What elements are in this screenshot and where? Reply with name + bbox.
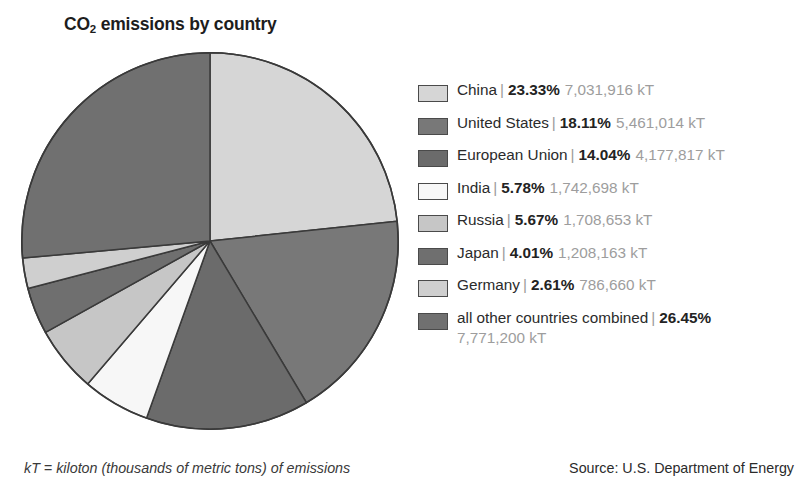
legend-kt-value: 1,708,653 kT xyxy=(563,211,652,228)
legend-country-name: European Union xyxy=(457,146,568,163)
legend-percent-value: 4.01% xyxy=(510,244,553,261)
legend-country-name: Germany xyxy=(457,276,520,293)
source-attribution: Source: U.S. Department of Energy xyxy=(569,460,794,476)
legend-item-all-other-countries-combined[interactable]: all other countries combined|26.45%7,771… xyxy=(418,310,804,346)
legend-country-name: all other countries combined xyxy=(457,309,648,326)
legend-separator: | xyxy=(651,309,655,326)
title-rest: emissions by country xyxy=(96,14,277,34)
legend-kt-value: 5,461,014 kT xyxy=(616,114,705,131)
legend-item-united-states[interactable]: United States|18.11%5,461,014 kT xyxy=(418,115,804,135)
legend-country-name: United States xyxy=(457,114,549,131)
page-title: CO2 emissions by country xyxy=(64,14,277,35)
legend-separator: | xyxy=(523,276,527,293)
legend-item-russia[interactable]: Russia|5.67%1,708,653 kT xyxy=(418,212,804,232)
legend-color-swatch xyxy=(418,85,448,102)
legend-percent-value: 2.61% xyxy=(531,276,574,293)
legend-country-name: Russia xyxy=(457,211,504,228)
legend-separator: | xyxy=(502,244,506,261)
legend-kt-value: 786,660 kT xyxy=(579,276,656,293)
legend-kt-value: 7,031,916 kT xyxy=(565,81,654,98)
legend-color-swatch xyxy=(418,313,448,330)
legend-separator: | xyxy=(507,211,511,228)
title-main: CO xyxy=(64,14,90,34)
pie-slice-china[interactable] xyxy=(210,53,397,241)
legend-color-swatch xyxy=(418,118,448,135)
legend-item-text: Russia|5.67%1,708,653 kT xyxy=(457,212,652,228)
legend-kt-value: 4,177,817 kT xyxy=(635,146,724,163)
legend-item-japan[interactable]: Japan|4.01%1,208,163 kT xyxy=(418,245,804,265)
legend-separator: | xyxy=(500,81,504,98)
legend-item-india[interactable]: India|5.78%1,742,698 kT xyxy=(418,180,804,200)
legend-item-text: China|23.33%7,031,916 kT xyxy=(457,82,654,98)
pie-slice-group xyxy=(22,53,398,429)
legend-item-text: Germany|2.61%786,660 kT xyxy=(457,277,656,293)
legend-item-germany[interactable]: Germany|2.61%786,660 kT xyxy=(418,277,804,297)
legend-item-text: Japan|4.01%1,208,163 kT xyxy=(457,245,647,261)
legend-separator: | xyxy=(552,114,556,131)
title-subscript: 2 xyxy=(90,23,96,35)
legend-percent-value: 26.45% xyxy=(659,309,711,326)
legend-color-swatch xyxy=(418,215,448,232)
legend-percent-value: 18.11% xyxy=(560,114,611,131)
legend-percent-value: 14.04% xyxy=(579,146,631,163)
legend-percent-value: 5.67% xyxy=(515,211,558,228)
legend-country-name: Japan xyxy=(457,244,499,261)
legend-separator: | xyxy=(493,179,497,196)
legend-percent-value: 5.78% xyxy=(501,179,544,196)
legend-kt-value: 1,208,163 kT xyxy=(558,244,647,261)
legend-kt-value: 1,742,698 kT xyxy=(550,179,639,196)
chart-legend: China|23.33%7,031,916 kTUnited States|18… xyxy=(418,82,804,358)
legend-percent-value: 23.33% xyxy=(508,81,560,98)
legend-item-text: India|5.78%1,742,698 kT xyxy=(457,180,639,196)
legend-kt-value: 7,771,200 kT xyxy=(457,330,711,346)
legend-country-name: India xyxy=(457,179,490,196)
legend-item-text: United States|18.11%5,461,014 kT xyxy=(457,115,705,131)
pie-chart-svg xyxy=(16,47,404,435)
legend-color-swatch xyxy=(418,150,448,167)
footnote-unit-definition: kT = kiloton (thousands of metric tons) … xyxy=(24,460,350,476)
legend-item-text: European Union|14.04%4,177,817 kT xyxy=(457,147,725,163)
pie-chart xyxy=(16,47,404,435)
legend-country-name: China xyxy=(457,81,497,98)
legend-item-text: all other countries combined|26.45%7,771… xyxy=(457,310,711,346)
legend-item-european-union[interactable]: European Union|14.04%4,177,817 kT xyxy=(418,147,804,167)
legend-item-china[interactable]: China|23.33%7,031,916 kT xyxy=(418,82,804,102)
legend-color-swatch xyxy=(418,183,448,200)
legend-color-swatch xyxy=(418,248,448,265)
legend-separator: | xyxy=(571,146,575,163)
legend-color-swatch xyxy=(418,280,448,297)
pie-slice-all-other-countries-combined[interactable] xyxy=(22,53,210,258)
